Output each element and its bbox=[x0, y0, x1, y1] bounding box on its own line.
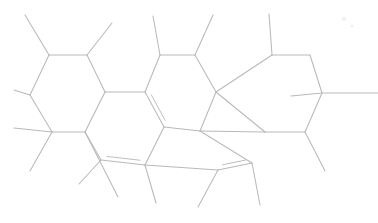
bond-e1-b4 bbox=[216, 55, 272, 92]
bond-c2-c3 bbox=[145, 127, 164, 165]
bond-c3-c4 bbox=[101, 160, 145, 165]
bond-a5-a6 bbox=[30, 95, 52, 132]
artifact-speck-2 bbox=[350, 24, 353, 27]
sub-a1-m1 bbox=[25, 15, 49, 55]
sub-b3-m7 bbox=[195, 15, 213, 55]
sub-a4-m16 bbox=[85, 132, 118, 197]
bond-b4-c1 bbox=[200, 92, 216, 131]
bond-c1-c2 bbox=[164, 127, 200, 131]
bond-b1-b2 bbox=[145, 55, 160, 92]
sub-a6-m2 bbox=[14, 90, 30, 95]
structure-diagram bbox=[0, 0, 378, 223]
bond-c3-c4-inner bbox=[107, 156, 140, 160]
bond-d1-d2-inner bbox=[223, 160, 246, 165]
bond-d4-e3 bbox=[305, 93, 322, 132]
bond-e3-e2 bbox=[310, 55, 322, 93]
bond-b3-b4 bbox=[195, 55, 216, 92]
sub-d1-m12 bbox=[252, 163, 260, 205]
bond-a6-a1 bbox=[30, 55, 49, 95]
sub-c4-m15 bbox=[79, 160, 101, 184]
bond-c1-d1 bbox=[200, 131, 252, 163]
artifact-layer bbox=[342, 17, 354, 28]
bond-d2-c3 bbox=[145, 165, 218, 170]
sub-d2-m13 bbox=[198, 170, 218, 207]
bond-b4-d3 bbox=[216, 92, 265, 132]
sub-e1-m8 bbox=[269, 14, 272, 55]
sub-c3-m14 bbox=[145, 165, 156, 203]
sub-a5-m5 bbox=[14, 128, 52, 132]
sub-a2-m3 bbox=[87, 23, 112, 55]
sub-a5-m4 bbox=[30, 132, 52, 171]
bond-d1-d2 bbox=[218, 163, 252, 170]
bond-a3-a4 bbox=[85, 92, 105, 132]
bond-layer bbox=[14, 14, 378, 207]
bond-c2-b1 bbox=[145, 92, 164, 127]
bond-a2-a3 bbox=[87, 55, 105, 92]
bond-c1-d3 bbox=[200, 131, 265, 132]
artifact-speck-1 bbox=[342, 17, 346, 21]
sub-d4-m11 bbox=[305, 132, 325, 171]
sub-e3-m10 bbox=[291, 93, 322, 96]
structure-canvas bbox=[0, 0, 378, 223]
sub-b2-m6 bbox=[153, 16, 160, 55]
